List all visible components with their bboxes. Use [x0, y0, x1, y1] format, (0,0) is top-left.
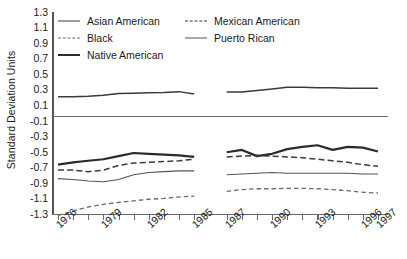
y-axis-tick-label: 1.1: [33, 22, 48, 33]
series-line: [58, 196, 194, 215]
series-line: [58, 92, 194, 97]
y-axis-tick-labels: 1.31.10.90.70.50.30.1-0.1-0.3-0.5-0.7-0.…: [22, 0, 50, 230]
x-axis-tick-labels: 197619791982198519871990199319961997: [52, 222, 407, 259]
y-axis-tick-label: 0.5: [33, 69, 48, 80]
x-axis-tick: [179, 214, 180, 220]
legend-entry[interactable]: Native American: [58, 48, 163, 62]
y-axis-title-label: Standard Deviation Units: [5, 51, 17, 170]
chart-root: Standard Deviation Units 1.31.10.90.70.5…: [0, 0, 407, 259]
legend-label: Black: [87, 33, 113, 44]
x-axis-tick: [348, 214, 349, 220]
x-axis-tick: [134, 214, 135, 220]
y-axis-tick-label: -0.1: [30, 116, 48, 127]
y-axis-title: Standard Deviation Units: [0, 0, 22, 220]
legend-line-sample-icon: [185, 16, 207, 26]
legend-entry[interactable]: Mexican American: [185, 14, 300, 28]
y-axis-tick-label: -0.5: [30, 147, 48, 158]
y-axis-tick-label: -1.1: [30, 193, 48, 204]
y-axis-tick-label: 0.3: [33, 84, 48, 95]
x-axis-tick: [302, 214, 303, 220]
y-axis-tick-label: -0.9: [30, 178, 48, 189]
series-line: [227, 172, 378, 174]
x-axis-tick: [257, 214, 258, 220]
y-axis-tick-label: -1.3: [30, 209, 48, 220]
y-axis-tick-label: -0.3: [30, 131, 48, 142]
x-axis-tick: [88, 214, 89, 220]
legend-label: Asian American: [87, 16, 160, 27]
y-axis-tick-label: 0.9: [33, 38, 48, 49]
series-line: [58, 171, 194, 182]
legend-line-sample-icon: [58, 33, 80, 43]
legend-entry[interactable]: Puerto Rican: [185, 31, 275, 45]
series-line: [227, 188, 378, 193]
series-line: [227, 145, 378, 156]
y-axis-tick-label: 0.1: [33, 100, 48, 111]
y-axis-tick-label: 0.7: [33, 53, 48, 64]
series-line: [58, 153, 194, 165]
chart-legend: Asian AmericanMexican AmericanBlackPuert…: [58, 14, 338, 66]
legend-label: Mexican American: [214, 16, 300, 27]
legend-entry[interactable]: Asian American: [58, 14, 160, 28]
legend-line-sample-icon: [185, 33, 207, 43]
legend-label: Native American: [87, 50, 163, 61]
series-line: [227, 87, 378, 92]
legend-line-sample-icon: [58, 16, 80, 26]
y-axis-tick-label: -0.7: [30, 162, 48, 173]
series-line: [227, 155, 378, 166]
legend-entry[interactable]: Black: [58, 31, 113, 45]
legend-label: Puerto Rican: [214, 33, 275, 44]
y-axis-tick-label: 1.3: [33, 7, 48, 18]
legend-line-sample-icon: [58, 50, 80, 60]
